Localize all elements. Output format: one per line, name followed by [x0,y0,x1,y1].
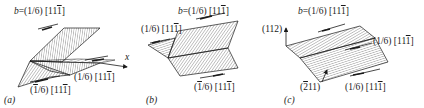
panel-a-right-partial-label: (1/6) [111] [74,73,115,83]
panel-a-burgers-vector-label: b=(1/6) [111] [14,7,65,17]
panel-c-bottom-partial-label: (1/6) [111] [345,83,386,93]
panel-a-x-axis-label: x [125,53,129,63]
panel-b-left-partial-label: (1/6) [111] [141,25,182,35]
panel-b-stacking-fault [148,13,238,78]
panel-a-caption: (a) [4,96,15,106]
panel-c-burgers-vector-label: b=(1/6) [111] [298,7,349,17]
panel-c-right-partial-label: (1/6) [111] [373,37,414,47]
panel-b-burgers-vector-label: b=(1/6) [111] [178,7,229,17]
panel-c-top-plane-label: (112) [262,25,282,35]
panel-c-bottom-plane-label: (211) [300,83,320,93]
panel-a-bottom-partial-label: (1/6) [111] [30,86,71,96]
panel-b-bottom-partial-label: (1/6) [111] [194,83,235,93]
panel-c-stacking-fault [286,24,388,82]
panel-b-caption: (b) [146,96,157,106]
panel-c-caption: (c) [284,96,295,106]
